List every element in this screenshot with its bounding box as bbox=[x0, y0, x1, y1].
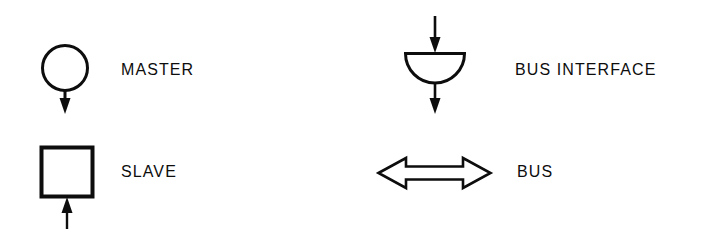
half-disc-with-through-arrows-icon bbox=[400, 10, 485, 120]
master-symbol bbox=[30, 12, 110, 120]
circle-with-outgoing-down-arrow-icon bbox=[30, 12, 110, 120]
legend-entry-bus: BUS bbox=[355, 125, 710, 250]
legend-label-master: MASTER bbox=[121, 62, 194, 78]
legend-entry-slave: SLAVE bbox=[0, 125, 355, 250]
legend-label-bus: BUS bbox=[517, 164, 553, 180]
symbol-legend-page: MASTER SLAVE bbox=[0, 0, 710, 250]
slave-symbol bbox=[30, 139, 110, 247]
square-with-incoming-up-arrow-icon bbox=[30, 139, 110, 247]
legend-entry-bus-interface: BUS INTERFACE bbox=[355, 0, 710, 125]
legend-label-slave: SLAVE bbox=[121, 164, 177, 180]
bus-interface-symbol bbox=[400, 10, 485, 120]
hollow-double-headed-horizontal-arrow-icon bbox=[375, 153, 505, 193]
legend-entry-master: MASTER bbox=[0, 0, 355, 125]
bus-symbol bbox=[375, 153, 505, 193]
legend-label-bus-interface: BUS INTERFACE bbox=[515, 62, 656, 78]
